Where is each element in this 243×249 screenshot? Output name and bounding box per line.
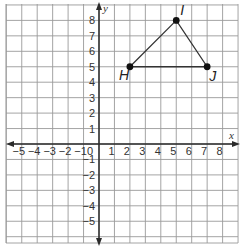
y-tick-label: 7: [89, 30, 95, 42]
triangle-edges: [130, 20, 207, 66]
y-tick-label: −1: [82, 153, 95, 165]
x-tick-label: 8: [217, 145, 223, 157]
y-tick-label: 1: [89, 123, 95, 135]
x-tick-label: 1: [108, 145, 114, 157]
x-tick-label: 5: [170, 145, 176, 157]
y-tick-label: 2: [89, 107, 95, 119]
grid: [6, 4, 238, 243]
y-tick-label: −5: [82, 215, 95, 227]
x-axis-label: x: [228, 129, 234, 141]
x-tick-label: −5: [12, 145, 25, 157]
y-tick-label: 3: [89, 92, 95, 104]
vertex-point-i: [173, 17, 180, 24]
y-axis-arrow-down-icon: [96, 238, 102, 246]
vertex-label-h: H: [119, 67, 130, 83]
y-axis-arrow-up-icon: [96, 2, 102, 10]
x-tick-label: 6: [186, 145, 192, 157]
x-tick-label: 4: [155, 145, 161, 157]
y-axis-label: y: [102, 2, 108, 14]
vertex-label-j: J: [208, 68, 217, 84]
vertex-label-i: I: [180, 2, 184, 18]
y-tick-label: 6: [89, 45, 95, 57]
y-tick-label: 4: [89, 76, 95, 88]
x-axis-arrow-right-icon: [232, 141, 240, 147]
x-tick-label: −2: [59, 145, 72, 157]
x-tick-label: −4: [28, 145, 41, 157]
vertices: HIJ: [119, 2, 217, 83]
x-tick-label: 3: [139, 145, 145, 157]
x-tick-label: 2: [124, 145, 130, 157]
y-tick-label: −4: [82, 200, 95, 212]
coordinate-plane: x y −5−4−3−2−101234567887654321−1−2−3−4−…: [0, 0, 243, 249]
y-tick-label: 5: [89, 61, 95, 73]
x-tick-label: 7: [201, 145, 207, 157]
y-tick-label: −2: [82, 169, 95, 181]
y-tick-label: −3: [82, 184, 95, 196]
x-tick-label: −3: [43, 145, 56, 157]
triangle-hij: [130, 20, 207, 66]
tick-labels: −5−4−3−2−101234567887654321−1−2−3−4−5: [12, 14, 222, 227]
axes: x y: [6, 2, 240, 246]
y-tick-label: 8: [89, 14, 95, 26]
